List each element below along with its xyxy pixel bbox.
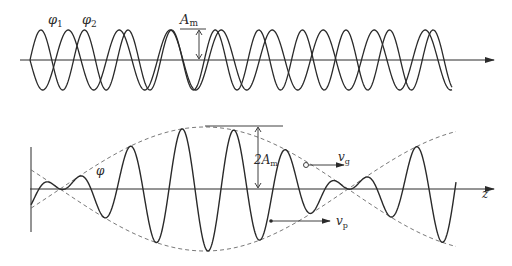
label-vp-sub: p xyxy=(343,221,348,230)
label-double-amplitude-sub: m xyxy=(270,159,278,168)
top-panel: φ1 φ2 Am xyxy=(20,12,494,90)
label-amplitude: A xyxy=(179,12,189,27)
label-double-amplitude: 2A xyxy=(253,153,271,167)
label-phi1-sub: 1 xyxy=(57,19,63,29)
label-z-axis: z xyxy=(481,187,489,201)
bottom-panel: 2Am vg vp φ z xyxy=(30,126,494,251)
envelope-lower xyxy=(31,132,456,251)
svg-text:vg: vg xyxy=(338,150,350,166)
wave-packet xyxy=(31,129,456,251)
label-phi: φ xyxy=(96,164,105,178)
label-vg-sub: g xyxy=(345,157,350,166)
svg-text:Am: Am xyxy=(179,12,198,28)
label-phi2-sub: 2 xyxy=(91,19,97,29)
svg-text:φ1: φ1 xyxy=(48,12,63,29)
envelope-upper xyxy=(31,127,456,246)
svg-text:φ2: φ2 xyxy=(82,12,97,29)
wave-superposition-figure: φ1 φ2 Am 2Am vg vp φ z xyxy=(0,0,512,266)
svg-text:2Am: 2Am xyxy=(253,153,278,168)
label-amplitude-sub: m xyxy=(189,18,198,28)
group-velocity-point xyxy=(304,163,309,168)
svg-text:vp: vp xyxy=(336,214,348,230)
